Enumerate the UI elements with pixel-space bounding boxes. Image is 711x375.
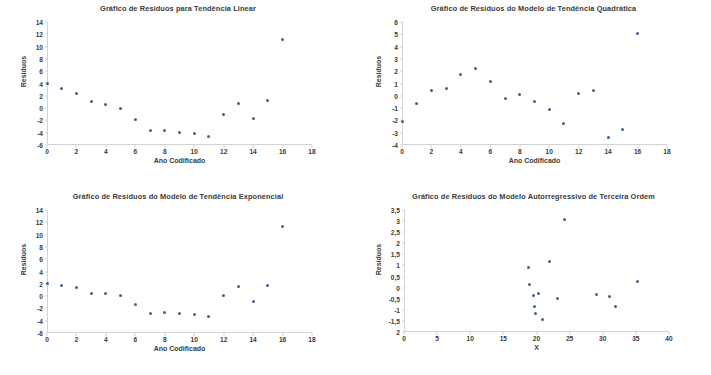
x-axis-tick-mark (135, 333, 136, 336)
data-point-marker (207, 135, 210, 138)
y-axis-tick-label: 2 (394, 68, 398, 75)
y-axis-tick-mark (45, 34, 48, 35)
y-axis-tick-label: 6 (39, 68, 43, 75)
chart-title-exponential: Gráfico de Resíduos do Modelo de Tendênc… (0, 192, 356, 201)
y-axis-tick-label: 14 (36, 207, 43, 214)
y-axis-tick-mark (45, 132, 48, 133)
data-point-marker (104, 292, 107, 295)
x-axis-tick-mark (549, 145, 550, 148)
x-axis-tick-mark (282, 145, 283, 148)
y-axis-tick-label: -6 (37, 330, 43, 337)
y-axis-tick-label: 12 (36, 31, 43, 38)
y-axis-tick-label: 0 (396, 284, 400, 291)
y-axis-tick-mark (400, 22, 403, 23)
data-point-marker (532, 294, 535, 297)
x-axis-tick-mark (253, 145, 254, 148)
data-point-marker (563, 218, 566, 221)
data-point-marker (548, 260, 551, 263)
data-point-marker (119, 107, 122, 110)
y-axis-tick-label: 14 (36, 19, 43, 26)
plot-area-quadratic: Ano Codificado -4-3-2-101234560246810121… (402, 22, 667, 145)
data-point-marker (149, 312, 152, 315)
residual-plots-grid: Gráfico de Resíduos para Tendência Linea… (0, 0, 711, 375)
y-axis-tick-label: -4 (392, 142, 398, 149)
y-axis-tick-label: 10 (36, 231, 43, 238)
x-axis-tick-mark (47, 333, 48, 336)
data-point-marker (548, 108, 551, 111)
chart-panel-exponential: Gráfico de Resíduos do Modelo de Tendênc… (0, 188, 356, 375)
y-axis-tick-mark (45, 246, 48, 247)
x-axis-tick-label: 6 (133, 148, 137, 155)
data-point-marker (401, 120, 404, 123)
y-axis-tick-mark (45, 108, 48, 109)
x-axis-tick-mark (312, 333, 313, 336)
x-axis-tick-mark (602, 332, 603, 335)
y-axis-tick-mark (402, 298, 405, 299)
data-point-marker (134, 118, 137, 121)
x-axis-tick-label: 30 (599, 335, 606, 342)
y-axis-tick-mark (400, 34, 403, 35)
x-axis-tick-mark (569, 332, 570, 335)
y-axis-tick-label: 8 (39, 55, 43, 62)
y-axis-tick-mark (400, 95, 403, 96)
x-axis-tick-mark (637, 145, 638, 148)
data-point-marker (193, 313, 196, 316)
y-axis-tick-mark (402, 287, 405, 288)
x-axis-tick-label: 25 (566, 335, 573, 342)
x-axis-tick-mark (253, 333, 254, 336)
x-axis-tick-mark (76, 333, 77, 336)
y-axis-tick-label: -0,5 (389, 295, 400, 302)
data-point-marker (541, 318, 544, 321)
x-axis-line (47, 144, 312, 145)
x-axis-tick-label: 4 (104, 336, 108, 343)
y-axis-tick-mark (45, 320, 48, 321)
x-axis-tick-mark (164, 145, 165, 148)
x-axis-tick-label: 0 (400, 148, 404, 155)
x-axis-tick-label: 0 (45, 336, 49, 343)
y-axis-tick-label: 6 (39, 256, 43, 263)
x-axis-line (47, 332, 312, 333)
y-axis-tick-label: 1 (394, 80, 398, 87)
y-axis-tick-label: 1 (396, 262, 400, 269)
plot-area-linear: Ano Codificado -6-4-20246810121402468101… (47, 22, 312, 145)
y-axis-label-linear: Resíduos (20, 56, 27, 88)
data-point-marker (46, 82, 49, 85)
y-axis-tick-label: -4 (37, 129, 43, 136)
y-axis-label-quadratic: Resíduos (375, 56, 382, 88)
x-axis-tick-label: 4 (459, 148, 463, 155)
data-point-marker (595, 293, 598, 296)
plot-area-exponential: Ano Codificado -6-4-20246810121402468101… (47, 210, 312, 333)
x-axis-tick-label: 6 (488, 148, 492, 155)
x-axis-tick-label: 2 (75, 148, 79, 155)
x-axis-tick-label: 16 (279, 148, 286, 155)
y-axis-line (47, 210, 48, 333)
data-point-marker (237, 285, 240, 288)
data-point-marker (46, 282, 49, 285)
x-axis-tick-label: 18 (308, 148, 315, 155)
data-point-marker (222, 294, 225, 297)
y-axis-tick-label: 10 (36, 43, 43, 50)
data-point-marker (528, 283, 531, 286)
data-point-marker (252, 300, 255, 303)
y-axis-tick-label: -1,5 (389, 317, 400, 324)
y-axis-tick-mark (45, 120, 48, 121)
y-axis-tick-mark (402, 221, 405, 222)
y-axis-tick-mark (400, 132, 403, 133)
y-axis-tick-mark (402, 320, 405, 321)
x-axis-tick-label: 2 (75, 336, 79, 343)
y-axis-tick-label: 0,5 (391, 273, 400, 280)
data-point-marker (178, 312, 181, 315)
x-axis-tick-label: 10 (191, 148, 198, 155)
data-point-marker (415, 102, 418, 105)
x-axis-tick-label: 8 (163, 148, 167, 155)
x-axis-tick-mark (437, 332, 438, 335)
x-axis-tick-mark (536, 332, 537, 335)
y-axis-tick-mark (45, 210, 48, 211)
data-point-marker (266, 99, 269, 102)
data-point-marker (636, 280, 639, 283)
x-axis-tick-label: 14 (249, 336, 256, 343)
data-point-marker (489, 80, 492, 83)
y-axis-tick-mark (45, 71, 48, 72)
x-axis-tick-label: 16 (634, 148, 641, 155)
x-axis-tick-mark (194, 145, 195, 148)
